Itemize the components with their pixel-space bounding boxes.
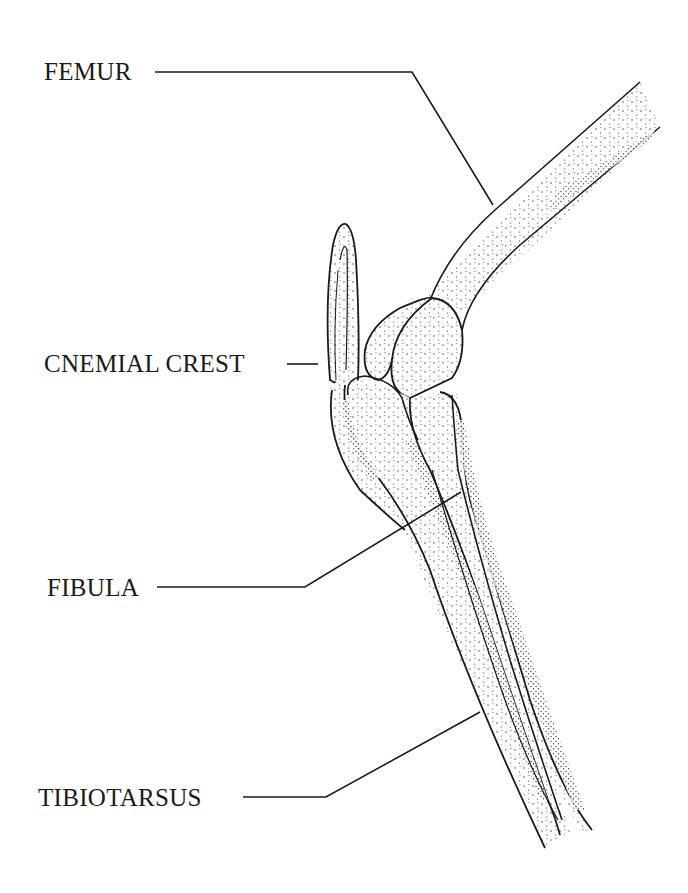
- label-femur: FEMUR: [44, 59, 132, 84]
- label-fibula: FIBULA: [47, 575, 139, 600]
- anatomy-diagram: FEMUR CNEMIAL CREST FIBULA TIBIOTARSUS: [0, 0, 688, 893]
- femur-leader-line: [155, 72, 493, 205]
- label-tibiotarsus: TIBIOTARSUS: [38, 785, 202, 810]
- leg-bone-illustration: [0, 0, 688, 893]
- cnemial-crest-bone: [328, 224, 359, 385]
- tibiotarsus-leader-line: [243, 712, 480, 797]
- femoral-condyles: [365, 297, 463, 398]
- femur-bone: [420, 82, 660, 345]
- label-cnemial-crest: CNEMIAL CREST: [44, 351, 245, 376]
